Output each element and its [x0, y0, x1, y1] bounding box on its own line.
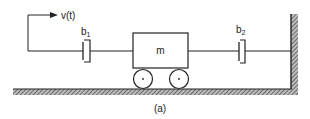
ground-hatch [13, 89, 298, 95]
figure-caption: (a) [154, 103, 166, 114]
input-label: v(t) [61, 10, 75, 21]
input-path [28, 15, 52, 51]
mass-label: m [156, 45, 164, 56]
damper-b1 [83, 40, 90, 62]
arrow-head-icon [50, 12, 58, 18]
damper-b2 [239, 40, 245, 63]
wall-hatch [291, 14, 298, 94]
mass-damper-diagram: v(t) b1 m b2 (a) [0, 0, 310, 119]
damper2-label: b2 [236, 24, 246, 36]
wheel-right [170, 70, 189, 89]
damper1-label: b1 [81, 26, 91, 38]
wheel-left [134, 70, 153, 89]
